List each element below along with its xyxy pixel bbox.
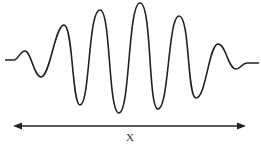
wave-packet-diagram: X xyxy=(0,0,261,150)
wave-packet-curve xyxy=(5,3,259,113)
arrow-left-head xyxy=(13,123,22,130)
extent-label: X xyxy=(126,131,134,143)
arrow-right-head xyxy=(237,123,246,130)
extent-arrow xyxy=(13,123,246,130)
